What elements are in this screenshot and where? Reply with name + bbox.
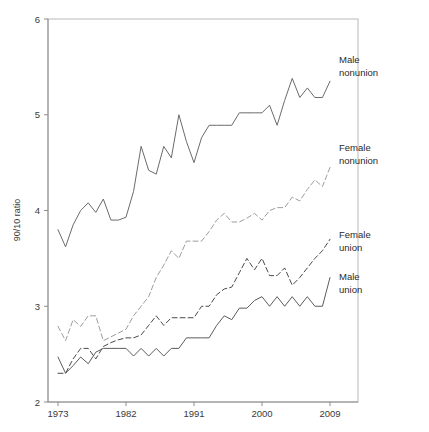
female-nonunion-label-line1: Female xyxy=(339,142,371,153)
x-tick-label: 2009 xyxy=(319,408,340,419)
female-nonunion-label-line2: nonunion xyxy=(339,155,378,166)
y-axis-title: 90/10 ratio xyxy=(12,199,22,242)
x-tick-label: 2000 xyxy=(251,408,272,419)
line-chart: 23456 19731982199120002009 90/10 ratio M… xyxy=(0,0,429,432)
x-tick-label: 1973 xyxy=(47,408,68,419)
female-union-label-line1: Female xyxy=(339,229,371,240)
x-tick-label: 1982 xyxy=(115,408,136,419)
y-tick-label: 4 xyxy=(35,205,40,216)
y-tick-label: 6 xyxy=(35,14,40,25)
female-union-label-line2: union xyxy=(339,242,362,253)
male-nonunion-label-line2: nonunion xyxy=(339,67,378,78)
male-nonunion-label-line1: Male xyxy=(339,54,360,65)
y-tick-label: 3 xyxy=(35,301,40,312)
x-tick-label: 1991 xyxy=(183,408,204,419)
y-tick-label: 2 xyxy=(35,397,40,408)
chart-background xyxy=(0,0,429,432)
chart-figure: 23456 19731982199120002009 90/10 ratio M… xyxy=(0,0,429,432)
male-union-label-line1: Male xyxy=(339,271,360,282)
y-tick-label: 5 xyxy=(35,109,40,120)
male-union-label-line2: union xyxy=(339,284,362,295)
